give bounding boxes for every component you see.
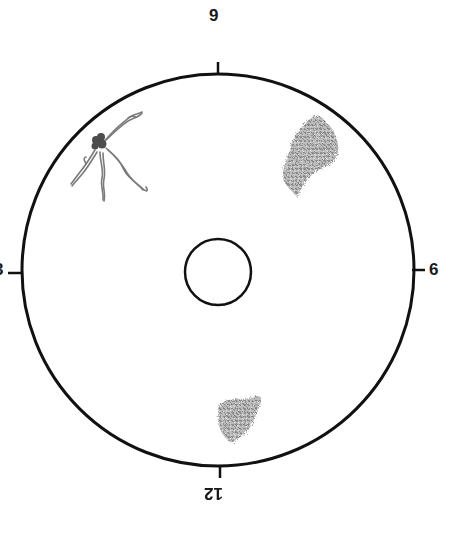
tick-marks [8, 62, 425, 478]
label-bottom: 12 [204, 485, 223, 502]
label-top: 9 [209, 7, 218, 24]
filamentous-colony [71, 112, 147, 201]
diagram-canvas [0, 0, 466, 533]
label-right: 6 [429, 261, 438, 278]
plate-diagram: 9 6 12 3 [0, 0, 466, 533]
plate-outline [22, 74, 414, 466]
label-left: 3 [0, 261, 3, 278]
large-fuzzy-colony [283, 116, 338, 197]
small-fuzzy-colony [218, 396, 261, 443]
filamentous-colony-core [92, 133, 107, 150]
center-well [185, 239, 251, 305]
